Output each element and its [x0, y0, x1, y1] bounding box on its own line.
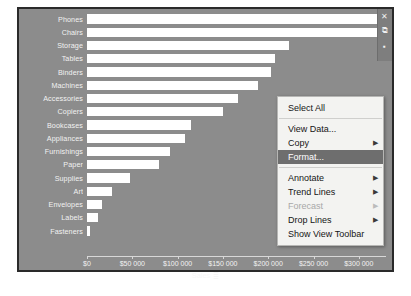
submenu-arrow-icon: ▶: [373, 136, 378, 150]
x-axis-tick-label: $150 000: [208, 260, 237, 267]
menu-item-label: Format...: [288, 152, 324, 162]
bar-mark[interactable]: [87, 213, 98, 222]
x-axis-tick-mark: [359, 256, 360, 259]
menu-item-label: Drop Lines: [288, 215, 332, 225]
bar-row[interactable]: Storage: [19, 39, 392, 52]
x-axis-tick-mark: [87, 256, 88, 259]
menu-item-select-all[interactable]: Select All: [278, 101, 383, 115]
bar-mark[interactable]: [87, 120, 191, 129]
bar-mark[interactable]: [87, 81, 258, 90]
bar-category-label[interactable]: Machines: [19, 79, 83, 92]
popout-icon[interactable]: ⧉: [379, 25, 390, 36]
menu-item-drop-lines[interactable]: Drop Lines▶: [278, 213, 383, 227]
bar-category-label[interactable]: Copiers: [19, 105, 83, 118]
bar-category-label[interactable]: Storage: [19, 39, 83, 52]
submenu-arrow-icon: ▶: [373, 199, 378, 213]
submenu-arrow-icon: ▶: [373, 171, 378, 185]
bar-category-label[interactable]: Appliances: [19, 132, 83, 145]
x-axis-tick-label: $200 000: [254, 260, 283, 267]
bar-track: [87, 26, 386, 39]
view-side-controls[interactable]: ✕ ⧉ ▪: [377, 9, 392, 61]
bar-category-label[interactable]: Labels: [19, 211, 83, 224]
menu-item-label: Copy: [288, 138, 309, 148]
bar-mark[interactable]: [87, 147, 170, 156]
menu-item-label: View Data...: [288, 124, 336, 134]
menu-item-view-data[interactable]: View Data...: [278, 122, 383, 136]
menu-item-label: Show View Toolbar: [288, 229, 364, 239]
bar-category-label[interactable]: Fasteners: [19, 225, 83, 238]
bar-mark[interactable]: [87, 54, 275, 63]
bar-category-label[interactable]: Accessories: [19, 92, 83, 105]
menu-item-label: Trend Lines: [288, 187, 335, 197]
x-axis-tick-label: $0: [83, 260, 91, 267]
x-axis-tick-mark: [314, 256, 315, 259]
bar-mark[interactable]: [87, 134, 185, 143]
menu-item-copy[interactable]: Copy▶: [278, 136, 383, 150]
bar-category-label[interactable]: Paper: [19, 158, 83, 171]
bar-row[interactable]: Machines: [19, 79, 392, 92]
close-icon[interactable]: ✕: [379, 11, 390, 22]
x-axis-tick-mark: [223, 256, 224, 259]
bar-row[interactable]: Chairs: [19, 26, 392, 39]
bar-category-label[interactable]: Envelopes: [19, 198, 83, 211]
bar-category-label[interactable]: Furnishings: [19, 145, 83, 158]
bar-mark[interactable]: [87, 28, 384, 37]
more-options-icon[interactable]: ▪: [379, 41, 390, 52]
sort-descending-icon[interactable]: ≣: [213, 272, 219, 281]
bar-row[interactable]: Tables: [19, 52, 392, 65]
context-menu[interactable]: Select AllView Data...Copy▶Format...Anno…: [277, 96, 384, 246]
menu-item-forecast: Forecast▶: [278, 199, 383, 213]
bar-mark[interactable]: [87, 200, 102, 209]
menu-item-label: Annotate: [288, 173, 324, 183]
submenu-arrow-icon: ▶: [373, 213, 378, 227]
x-axis-title-label: Sales: [192, 271, 211, 280]
x-axis-tick-mark: [132, 256, 133, 259]
x-axis-tick-mark: [268, 256, 269, 259]
menu-item-show-view-toolbar[interactable]: Show View Toolbar: [278, 227, 383, 241]
menu-item-label: Select All: [288, 103, 325, 113]
menu-item-trend-lines[interactable]: Trend Lines▶: [278, 185, 383, 199]
bar-category-label[interactable]: Binders: [19, 66, 83, 79]
bar-mark[interactable]: [87, 187, 112, 196]
bar-category-label[interactable]: Bookcases: [19, 119, 83, 132]
x-axis-title[interactable]: Sales≣: [19, 271, 392, 281]
bar-track: [87, 39, 386, 52]
x-axis-tick-mark: [178, 256, 179, 259]
bar-track: [87, 79, 386, 92]
chart-panel: PhonesChairsStorageTablesBindersMachines…: [17, 7, 394, 272]
x-axis-tick-label: $250 000: [299, 260, 328, 267]
bar-category-label[interactable]: Art: [19, 185, 83, 198]
bar-mark[interactable]: [87, 226, 90, 235]
bar-category-label[interactable]: Tables: [19, 52, 83, 65]
bar-mark[interactable]: [87, 67, 271, 76]
menu-separator: [279, 167, 382, 168]
bar-track: [87, 13, 386, 26]
bar-track: [87, 66, 386, 79]
menu-item-format[interactable]: Format...: [278, 150, 383, 164]
menu-item-label: Forecast: [288, 201, 323, 211]
menu-separator: [279, 118, 382, 119]
submenu-arrow-icon: ▶: [373, 185, 378, 199]
x-axis-tick-label: $300 000: [344, 260, 373, 267]
bar-mark[interactable]: [87, 94, 238, 103]
bar-mark[interactable]: [87, 160, 159, 169]
bar-category-label[interactable]: Phones: [19, 13, 83, 26]
bar-row[interactable]: Phones: [19, 13, 392, 26]
bar-track: [87, 52, 386, 65]
menu-item-annotate[interactable]: Annotate▶: [278, 171, 383, 185]
bar-row[interactable]: Binders: [19, 66, 392, 79]
bar-mark[interactable]: [87, 107, 223, 116]
bar-category-label[interactable]: Chairs: [19, 26, 83, 39]
x-axis-tick-label: $50 000: [120, 260, 145, 267]
bar-category-label[interactable]: Supplies: [19, 172, 83, 185]
bar-mark[interactable]: [87, 14, 386, 23]
x-axis-tick-label: $100 000: [163, 260, 192, 267]
bar-mark[interactable]: [87, 173, 130, 182]
bar-mark[interactable]: [87, 41, 289, 50]
